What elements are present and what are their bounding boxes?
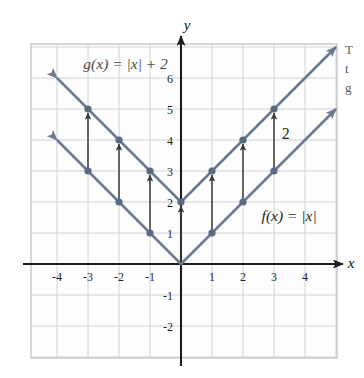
y-tick-label: -1 bbox=[163, 289, 173, 303]
graph-figure: xy-4-3-2-11234-2-1123456g(x) = |x| + 2f(… bbox=[0, 0, 364, 378]
y-tick-label: 4 bbox=[167, 134, 173, 148]
margin-text-column: T t g bbox=[345, 40, 364, 97]
x-tick-label: -2 bbox=[114, 270, 124, 284]
x-tick-label: 1 bbox=[209, 270, 215, 284]
f-function-label: f(x) = |x| bbox=[262, 207, 317, 225]
y-tick-label: -2 bbox=[163, 320, 173, 334]
y-tick-label: 5 bbox=[167, 103, 173, 117]
x-tick-label: 4 bbox=[302, 270, 308, 284]
x-tick-label: -3 bbox=[83, 270, 93, 284]
data-point bbox=[239, 136, 246, 143]
margin-text-line-1: T bbox=[345, 40, 364, 59]
data-point bbox=[270, 167, 277, 174]
data-point bbox=[115, 198, 122, 205]
shift-amount-label: 2 bbox=[282, 125, 290, 142]
data-point bbox=[208, 229, 215, 236]
y-tick-label: 2 bbox=[167, 196, 173, 210]
y-tick-label: 1 bbox=[167, 227, 173, 241]
x-tick-label: 3 bbox=[271, 270, 277, 284]
x-tick-label: -1 bbox=[145, 270, 155, 284]
margin-text-line-3: g bbox=[345, 78, 364, 97]
data-point bbox=[177, 198, 184, 205]
x-tick-label: 2 bbox=[240, 270, 246, 284]
data-point bbox=[270, 105, 277, 112]
x-axis-label: x bbox=[347, 255, 355, 271]
data-point bbox=[146, 167, 153, 174]
data-point bbox=[146, 229, 153, 236]
y-tick-label: 3 bbox=[167, 165, 173, 179]
margin-text-line-2: t bbox=[345, 59, 364, 78]
y-axis-label: y bbox=[182, 17, 191, 33]
data-point bbox=[84, 167, 91, 174]
g-function-label: g(x) = |x| + 2 bbox=[83, 55, 168, 73]
data-point bbox=[84, 105, 91, 112]
data-point bbox=[239, 198, 246, 205]
y-tick-label: 6 bbox=[167, 72, 173, 86]
data-point bbox=[115, 136, 122, 143]
data-point bbox=[208, 167, 215, 174]
x-tick-label: -4 bbox=[52, 270, 62, 284]
